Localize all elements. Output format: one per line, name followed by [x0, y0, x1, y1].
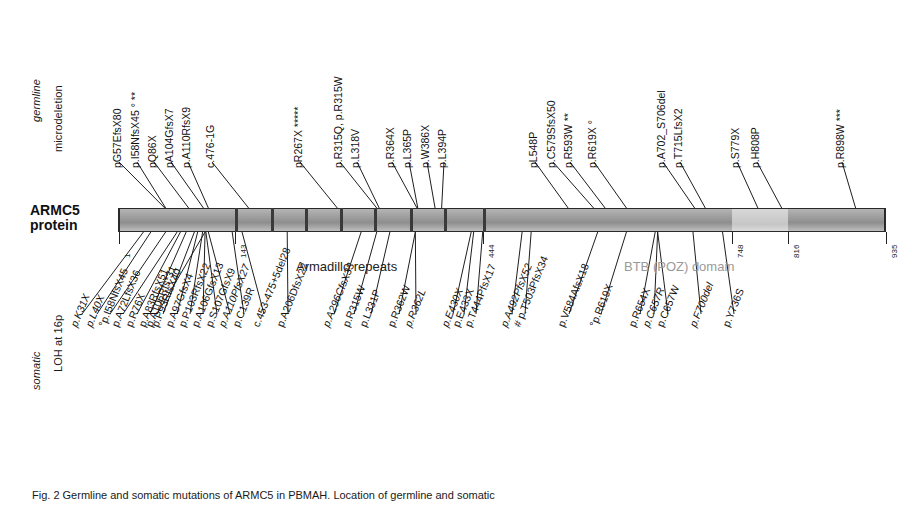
germline-mutation-label: p.W386X [420, 125, 430, 168]
germline-mutation-label: p.L318V [350, 129, 360, 168]
germline-mutation-label: p.L394P [437, 129, 447, 168]
germline-leader-line [680, 162, 705, 208]
germline-mutation-label: pQ86X [147, 135, 157, 168]
position-number: 143 [239, 245, 248, 258]
germline-mutation-label: p.H808P [750, 127, 760, 168]
position-tick [235, 232, 236, 244]
germline-mutation-label: c.476-1G [205, 125, 215, 168]
position-number: 816 [792, 245, 801, 258]
germline-leader-line [300, 162, 337, 208]
germline-mutation-label: p.R619X ° [587, 120, 597, 168]
germline-leader-line [154, 162, 189, 208]
germline-mutation-label: pL548P [528, 132, 538, 168]
germline-mutation-label: p.I58NfsX45 ° ** [130, 92, 140, 168]
position-number: 444 [487, 245, 496, 258]
position-tick [788, 232, 789, 244]
germline-mutation-label: p.A702_S706del [656, 90, 666, 168]
germline-leader-line [737, 162, 758, 208]
position-tick [732, 232, 733, 244]
germline-leader-line [442, 162, 444, 208]
germline-mutation-label: pR267X ***** [293, 107, 303, 168]
germline-mutation-label: p.A110RfsX9 [181, 107, 191, 168]
position-number: 935 [890, 245, 899, 258]
position-tick [886, 232, 887, 244]
germline-mutation-label: p.R315Q, p.R315W [333, 76, 343, 168]
position-number: 748 [736, 245, 745, 258]
germline-leader-line [535, 162, 568, 208]
germline-mutation-label: p.C579SfsX50 [546, 100, 556, 168]
germline-mutation-label: p.R898W *** [835, 109, 845, 168]
btb-poz-domain-label: BTB (POZ) domain [624, 259, 735, 274]
germline-leader-line [842, 162, 856, 208]
figure-caption: Fig. 2 Germline and somatic mutations of… [32, 489, 872, 509]
germline-mutation-label: p.T715LfsX2 [673, 108, 683, 168]
germline-mutation-label: p.S779X [730, 128, 740, 168]
germline-mutation-label: pA104GfsX7 [164, 108, 174, 168]
germline-leader-line [594, 162, 626, 208]
germline-leader-line [119, 162, 165, 208]
germline-leader-line [757, 162, 782, 208]
germline-leader-line [427, 162, 435, 208]
germline-mutation-label: p.R364X [385, 127, 395, 168]
germline-leader-line [212, 162, 249, 208]
germline-mutation-label: p.L365P [402, 129, 412, 168]
armc5-mutation-figure: germline microdeletion somatic LOH at 16… [0, 0, 904, 509]
position-tick [483, 232, 484, 244]
germline-leader-line [357, 162, 379, 208]
germline-mutation-label: pG57EfsX80 [112, 108, 122, 168]
position-number: 1 [123, 254, 132, 258]
germline-mutation-label: p.R593W ** [563, 113, 573, 168]
germline-leader-line [340, 162, 377, 208]
leader-lines [0, 0, 904, 509]
position-tick [119, 232, 120, 244]
armadillo-repeats-label: Armadillo repeats [296, 259, 397, 274]
germline-leader-line [663, 162, 695, 208]
